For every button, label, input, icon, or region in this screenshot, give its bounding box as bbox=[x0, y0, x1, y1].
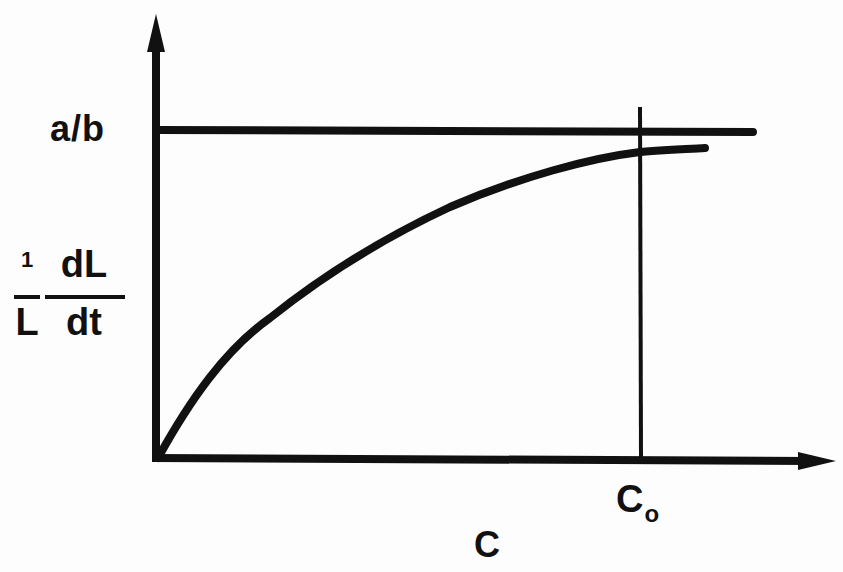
y-axis-arrow-icon bbox=[147, 14, 165, 52]
chart-figure: a/b 1 dL L dt Co C bbox=[0, 0, 843, 572]
y-axis bbox=[147, 14, 165, 460]
x-axis-arrow-icon bbox=[798, 452, 836, 470]
c0-marker-label: Co bbox=[616, 480, 658, 518]
fraction-bar bbox=[45, 295, 125, 299]
y-label-coef-denominator: L bbox=[14, 301, 40, 344]
c0-vertical-line bbox=[640, 107, 641, 458]
x-axis bbox=[152, 452, 836, 470]
growth-curve bbox=[158, 148, 705, 458]
asymptote-label: a/b bbox=[50, 111, 105, 147]
chart-plot bbox=[0, 0, 843, 572]
x-axis-label: C bbox=[474, 527, 500, 563]
y-label-deriv-denominator: dt bbox=[44, 301, 124, 344]
asymptote-line bbox=[156, 130, 753, 132]
y-label-coef-numerator: 1 bbox=[16, 247, 38, 273]
c0-main: C bbox=[616, 478, 643, 520]
fraction-bar bbox=[14, 295, 40, 299]
y-label-deriv-numerator: dL bbox=[44, 243, 124, 286]
c0-subscript: o bbox=[644, 500, 659, 527]
